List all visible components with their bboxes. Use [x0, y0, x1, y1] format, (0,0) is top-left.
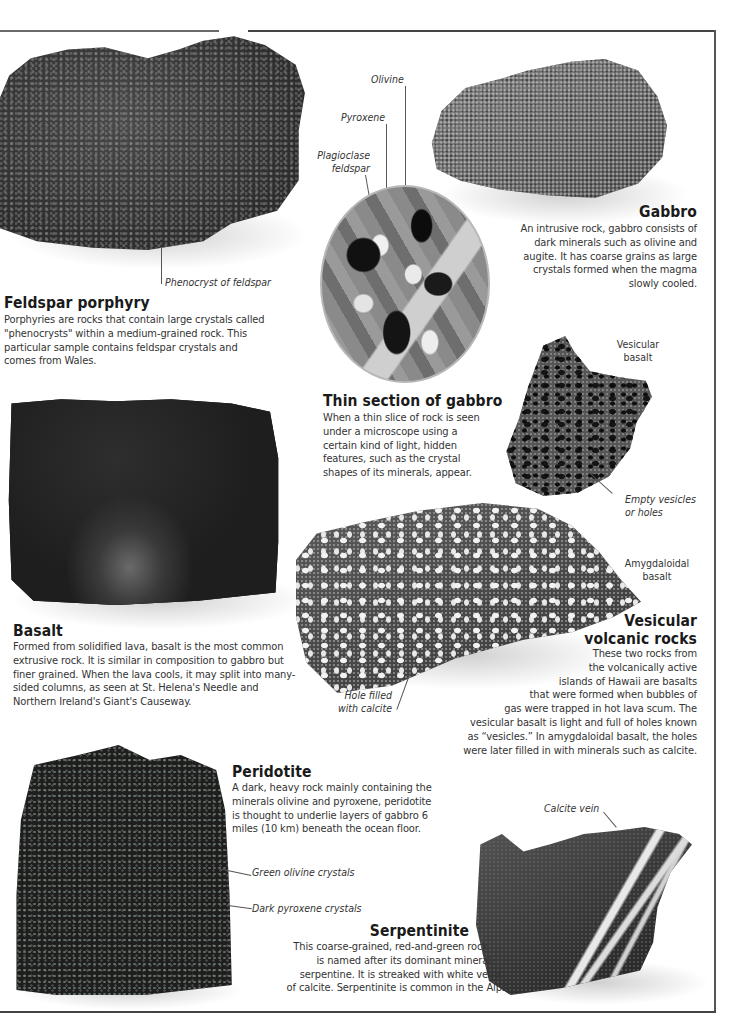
- thin-section-body: When a thin slice of rock is seen under …: [323, 411, 483, 480]
- empty-vesicles-label-line1: Empty vesicles: [625, 493, 696, 506]
- calcite-vein-label: Calcite vein: [544, 802, 599, 815]
- body-line: serpentine. It is streaked with white ve…: [240, 968, 510, 982]
- serpentinite-body: This coarse-grained, red-and-green rock …: [240, 940, 510, 995]
- empty-vesicles-label-line2: or holes: [625, 506, 696, 519]
- peridotite-body: A dark, heavy rock mainly containing the…: [232, 781, 442, 836]
- body-line: of calcite. Serpentinite is common in th…: [240, 981, 510, 995]
- body-line: vesicular basalt is light and full of ho…: [420, 716, 697, 730]
- plagioclase-label: Plagioclase feldspar: [300, 149, 370, 175]
- gabbro-body: An intrusive rock, gabbro consists of da…: [520, 222, 697, 291]
- gabbro-photo: [427, 56, 667, 201]
- gabbro-title: Gabbro: [560, 203, 697, 221]
- leader-line: [161, 248, 162, 284]
- vesicular-volcanic-title-line1: Vesicular: [540, 612, 697, 630]
- green-olivine-label: Green olivine crystals: [252, 866, 354, 879]
- body-line: This coarse-grained, red-and-green rock: [240, 940, 510, 954]
- peridotite-title: Peridotite: [232, 763, 311, 781]
- vesicular-basalt-label-line1: Vesicular: [603, 338, 673, 351]
- vesicular-basalt-label-line2: basalt: [603, 351, 673, 364]
- leader-line-calcite: [603, 812, 617, 828]
- thin-section-micrograph: [320, 185, 490, 383]
- phenocryst-label: Phenocryst of feldspar: [165, 276, 271, 289]
- amygdaloidal-basalt-label: Amygdaloidal basalt: [612, 557, 702, 583]
- body-line: that were formed when bubbles of: [420, 688, 697, 702]
- hole-filled-label-line1: Hole filled: [330, 689, 392, 702]
- thin-section-title: Thin section of gabbro: [323, 392, 502, 410]
- leader-line-olivine: [405, 86, 406, 194]
- body-line: the volcanically active: [420, 661, 697, 675]
- basalt-photo: [6, 395, 281, 605]
- amygdaloidal-label-line1: Amygdaloidal: [612, 557, 702, 570]
- olivine-label: Olivine: [371, 73, 404, 86]
- vesicular-volcanic-title: Vesicular volcanic rocks: [540, 612, 697, 648]
- leader-line-pyroxene: [386, 124, 387, 196]
- vesicular-volcanic-title-line2: volcanic rocks: [540, 630, 697, 648]
- body-line: as “vesicles.” In amygdaloidal basalt, t…: [420, 730, 697, 744]
- serpentinite-title: Serpentinite: [340, 922, 469, 940]
- frame-top-rule-left: [0, 30, 219, 32]
- feldspar-porphyry-title: Feldspar porphyry: [4, 294, 150, 312]
- empty-vesicles-label: Empty vesicles or holes: [625, 493, 696, 519]
- body-line: were later filled in with minerals such …: [420, 744, 697, 758]
- frame-bottom-rule: [0, 1011, 716, 1013]
- body-line: is named after its dominant mineral,: [240, 954, 510, 968]
- dark-pyroxene-label: Dark pyroxene crystals: [252, 902, 362, 915]
- amygdaloidal-label-line2: basalt: [612, 570, 702, 583]
- vesicular-basalt-label: Vesicular basalt: [603, 338, 673, 364]
- basalt-title: Basalt: [13, 622, 63, 640]
- vesicular-volcanic-body: These two rocks from the volcanically ac…: [420, 647, 697, 757]
- peridotite-photo: [12, 745, 234, 995]
- body-line: These two rocks from: [420, 647, 697, 661]
- hole-filled-label: Hole filled with calcite: [330, 689, 392, 715]
- frame-right-rule: [714, 30, 716, 1012]
- frame-top-rule-right: [248, 30, 715, 32]
- body-line: islands of Hawaii are basalts: [420, 675, 697, 689]
- basalt-body: Formed from solidified lava, basalt is t…: [13, 640, 298, 709]
- pyroxene-label: Pyroxene: [341, 111, 385, 124]
- leader-line-pyroxene-crystals: [228, 905, 252, 909]
- body-line: gas were trapped in hot lava scum. The: [420, 702, 697, 716]
- feldspar-porphyry-body: Porphyries are rocks that contain large …: [4, 313, 266, 368]
- hole-filled-label-line2: with calcite: [330, 702, 392, 715]
